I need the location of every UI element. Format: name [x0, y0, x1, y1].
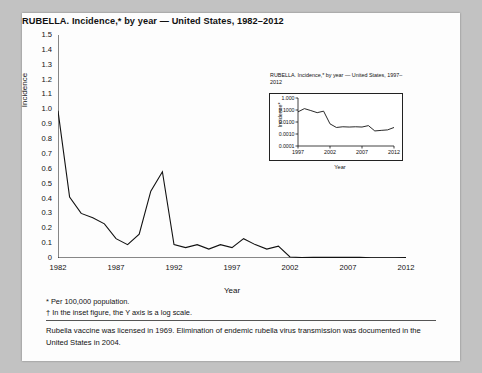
y-tick-label: 0.5 — [30, 179, 52, 188]
y-tick-label: 0.1 — [30, 238, 52, 247]
x-tick-label: 2012 — [392, 263, 420, 272]
y-tick-label: 1.0 — [30, 104, 52, 113]
y-tick-label: 0.2 — [30, 223, 52, 232]
divider — [46, 320, 436, 321]
inset-x-tick-label: 2007 — [352, 149, 372, 155]
y-tick-label: 1.2 — [30, 75, 52, 84]
y-tick-label: 0.6 — [30, 164, 52, 173]
screenshot-page: RUBELLA. Incidence,* by year — United St… — [0, 0, 482, 373]
x-tick-label: 2002 — [276, 263, 304, 272]
main-y-axis-label: Incidence — [20, 50, 29, 130]
inset-y-tick-label: 0.0010 — [269, 131, 295, 137]
inset-x-tick-label: 1997 — [288, 149, 308, 155]
main-x-axis-label: Year — [58, 286, 406, 295]
y-tick-label: 1.1 — [30, 89, 52, 98]
y-tick-label: 1.4 — [30, 45, 52, 54]
footnote-incidence: * Per 100,000 population. — [46, 296, 129, 307]
y-tick-label: 0.9 — [30, 119, 52, 128]
x-tick-label: 1982 — [44, 263, 72, 272]
y-tick-label: 0.3 — [30, 208, 52, 217]
figure-note: Rubella vaccine was licensed in 1969. El… — [46, 325, 436, 348]
x-tick-label: 1997 — [218, 263, 246, 272]
page-title: RUBELLA. Incidence,* by year — United St… — [22, 16, 284, 26]
y-tick-label: 0.8 — [30, 134, 52, 143]
inset-y-tick-label: 0.1000 — [269, 107, 295, 113]
y-tick-label: 1.5 — [30, 30, 52, 39]
inset-x-tick-label: 2012 — [384, 149, 404, 155]
x-tick-label: 1992 — [160, 263, 188, 272]
inset-x-tick-label: 2002 — [320, 149, 340, 155]
x-tick-label: 2007 — [334, 263, 362, 272]
inset-y-tick-label: 0.0100 — [269, 119, 295, 125]
inset-x-axis-label: Year — [300, 164, 380, 170]
inset-y-tick-label: 0.0001 — [269, 143, 295, 149]
y-tick-label: 0.7 — [30, 149, 52, 158]
footnote-log-scale: † In the inset figure, the Y axis is a l… — [46, 307, 192, 318]
y-tick-label: 1.3 — [30, 60, 52, 69]
inset-y-tick-label: 1.000 — [269, 95, 295, 101]
inset-chart-title: RUBELLA. Incidence,* by year — United St… — [270, 72, 406, 86]
y-tick-label: 0 — [30, 253, 52, 262]
y-tick-label: 0.4 — [30, 194, 52, 203]
x-tick-label: 1987 — [102, 263, 130, 272]
